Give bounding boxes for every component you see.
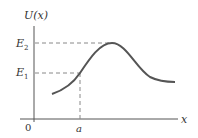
e2-label: E2 [15, 37, 29, 52]
a-label: a [76, 123, 82, 134]
e1-label: E1 [15, 66, 29, 81]
potential-energy-diagram: U(x) x 0 a E2 E1 [0, 0, 198, 138]
potential-curve [52, 43, 175, 94]
x-axis-label: x [181, 113, 188, 126]
y-axis-label: U(x) [24, 9, 48, 22]
origin-label: 0 [25, 122, 31, 133]
